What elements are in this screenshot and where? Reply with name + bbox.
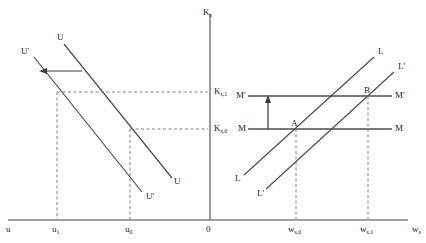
point-label-A: A	[291, 119, 298, 128]
curve-U-prime	[34, 57, 142, 192]
point-label-B: B	[364, 86, 370, 95]
curve-label-L-bottom: L	[235, 174, 241, 183]
line-label-M-left: M	[238, 124, 246, 133]
tick-label-ws0-sub: s,0	[295, 229, 302, 235]
diagram-canvas: Ks 0 u ws u1 u0 Ks,1 Ks,0 U U' U U' ws,0…	[0, 0, 426, 243]
curve-L-prime	[266, 72, 394, 189]
tick-label-ws1-sub: s,1	[367, 229, 374, 235]
line-label-M-right: M	[395, 124, 403, 133]
tick-label-ws0: ws,0	[288, 225, 301, 234]
leftward-shift-arrow	[39, 68, 82, 74]
tick-label-u1: u1	[52, 225, 60, 234]
axis-label-ks-sub: s	[210, 12, 212, 18]
tick-label-ks0: Ks,0	[214, 124, 227, 133]
curve-label-Lprime-bottom: L'	[257, 189, 264, 198]
axis-label-ws: ws	[412, 225, 421, 234]
tick-label-ks1: Ks,1	[214, 87, 227, 96]
curve-label-U-top: U	[57, 33, 64, 42]
axis-label-u: u	[6, 225, 11, 234]
curve-label-L-top: L	[378, 47, 384, 56]
axis-group	[8, 14, 408, 220]
line-label-Mprime-right: M'	[395, 91, 405, 100]
curve-U	[64, 44, 172, 178]
tick-label-u0: u0	[125, 225, 133, 234]
upward-shift-arrow	[265, 95, 271, 129]
curve-label-Uprime-top: U'	[21, 47, 29, 56]
tick-label-u1-sub: 1	[57, 229, 60, 235]
curve-label-U-bottom: U	[174, 177, 181, 186]
tick-label-ks1-sub: s,1	[221, 91, 228, 97]
line-label-Mprime-left: M'	[236, 91, 246, 100]
curve-label-Lprime-top: L'	[398, 62, 405, 71]
origin-label: 0	[206, 225, 211, 234]
left-panel-group	[34, 44, 208, 219]
curve-L	[244, 57, 374, 175]
axis-label-ks: Ks	[203, 8, 212, 17]
tick-label-u0-sub: 0	[130, 229, 133, 235]
right-panel-group	[244, 57, 394, 219]
curve-label-Uprime-bottom: U'	[146, 192, 154, 201]
tick-label-ks0-sub: s,0	[221, 128, 228, 134]
tick-label-ws1: ws,1	[360, 225, 373, 234]
axis-label-ws-sub: s	[419, 229, 421, 235]
